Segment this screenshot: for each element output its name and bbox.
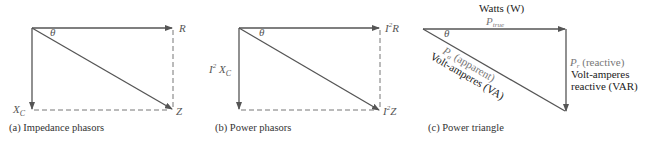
- panel-power-phasors: θ I2R I2 XC I2Z (b) Power phasors: [208, 21, 399, 134]
- z-phasor-arrow: [32, 28, 172, 109]
- theta-angle-label: θ: [259, 26, 265, 38]
- i2r-label: I2R: [384, 21, 399, 34]
- i2z-phasor-arrow: [239, 28, 379, 110]
- watts-unit-label: Watts (W): [479, 2, 525, 15]
- panel-power-triangle: θ Watts (W) Ptrue Pr (reactive) Volt-amp…: [423, 2, 638, 134]
- i2z-label: I2Z: [382, 104, 397, 117]
- caption-power-triangle: (c) Power triangle: [428, 122, 504, 134]
- true-power-label: Ptrue: [485, 15, 504, 29]
- power-diagram-canvas: θ R XC Z (a) Impedance phasors θ I2R I2 …: [0, 0, 646, 144]
- apparent-power-labels: Pa (apparent) Volt-amperes (VA): [428, 40, 512, 102]
- var-unit-line2: reactive (VAR): [571, 80, 638, 93]
- theta-angle-label: θ: [444, 27, 450, 39]
- theta-angle-label: θ: [50, 26, 56, 38]
- z-label: Z: [176, 105, 183, 117]
- caption-power-phasors: (b) Power phasors: [215, 122, 291, 134]
- i2xc-label: I2 XC: [208, 62, 232, 78]
- var-unit-line1: Volt-amperes: [571, 68, 629, 80]
- panel-impedance-phasors: θ R XC Z (a) Impedance phasors: [9, 22, 186, 134]
- xc-label: XC: [12, 103, 26, 118]
- r-label: R: [178, 22, 186, 34]
- apparent-power-line: [423, 29, 565, 111]
- caption-impedance-phasors: (a) Impedance phasors: [9, 122, 104, 134]
